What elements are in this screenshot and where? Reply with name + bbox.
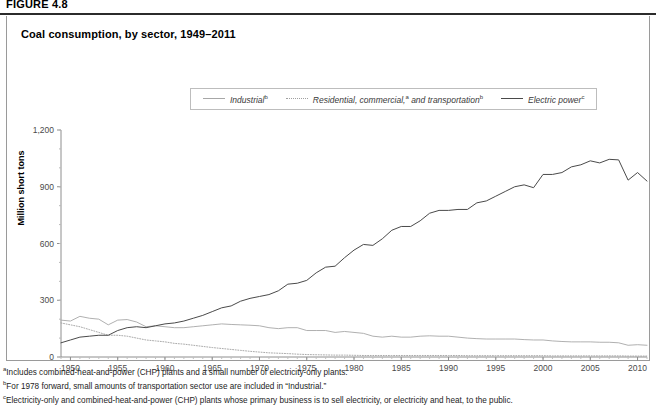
figure-number: FIGURE 4.8 bbox=[6, 0, 68, 10]
y-tick-label: 900 bbox=[20, 182, 54, 192]
series-line-2 bbox=[61, 323, 647, 356]
chart-card: Coal consumption, by sector, 1949–2011 I… bbox=[6, 16, 650, 361]
footnote-2: bFor 1978 forward, small amounts of tran… bbox=[3, 378, 653, 392]
header-rule bbox=[0, 13, 656, 15]
footnote-1: aIncludes combined-heat-and-power (CHP) … bbox=[3, 364, 653, 378]
y-tick-label: 300 bbox=[20, 295, 54, 305]
series-line-3 bbox=[61, 159, 647, 342]
footnotes: aIncludes combined-heat-and-power (CHP) … bbox=[3, 364, 653, 407]
plot-area: Million short tons 03006009001,200 19501… bbox=[7, 16, 651, 361]
chart-svg bbox=[7, 16, 651, 361]
y-tick-label: 1,200 bbox=[20, 125, 54, 135]
footnote-3: cElectricity-only and combined-heat-and-… bbox=[3, 392, 653, 406]
series-line-1 bbox=[61, 316, 647, 345]
y-tick-label: 0 bbox=[20, 352, 54, 362]
y-tick-label: 600 bbox=[20, 239, 54, 249]
